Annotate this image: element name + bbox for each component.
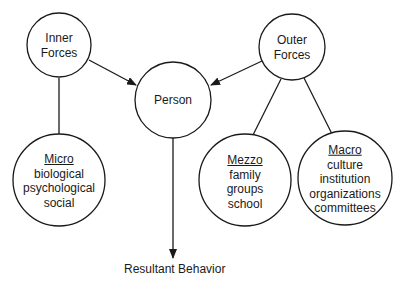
outer-forces-label: Outer Forces xyxy=(274,33,311,62)
inner-forces-line-2: Forces xyxy=(41,45,78,60)
mezzo-title: Mezzo xyxy=(227,153,264,168)
inner-forces-line-1: Inner xyxy=(41,31,78,46)
inner-forces-label: Inner Forces xyxy=(41,31,78,60)
mezzo-item: school xyxy=(227,197,264,212)
edge-inner-to-person xyxy=(89,60,136,85)
edge-outer-to-person xyxy=(211,61,262,85)
macro-item: culture xyxy=(309,157,380,172)
mezzo-item: family xyxy=(227,168,264,183)
person-label: Person xyxy=(154,93,192,108)
micro-item: biological xyxy=(23,167,95,182)
mezzo-label: Mezzo family groups school xyxy=(227,153,264,211)
person-text: Person xyxy=(154,93,192,108)
macro-item: committees xyxy=(309,201,380,216)
micro-item: social xyxy=(23,196,95,211)
micro-item: psychological xyxy=(23,181,95,196)
mezzo-item: groups xyxy=(227,182,264,197)
micro-title: Micro xyxy=(23,152,95,167)
edge-outer-to-mezzo xyxy=(253,79,281,135)
macro-item: organizations xyxy=(309,186,380,201)
macro-title: Macro xyxy=(309,143,380,158)
micro-label: Micro biological psychological social xyxy=(23,152,95,210)
macro-label: Macro culture institution organizations … xyxy=(309,143,380,216)
outer-forces-line-2: Forces xyxy=(274,47,311,62)
resultant-behavior-label: Resultant Behavior xyxy=(124,262,225,276)
edge-outer-to-macro xyxy=(304,78,332,134)
outer-forces-line-1: Outer xyxy=(274,33,311,48)
macro-item: institution xyxy=(309,172,380,187)
